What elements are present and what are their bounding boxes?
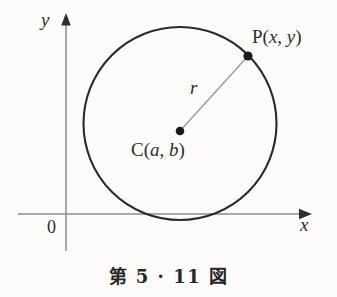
center-point-marker	[176, 127, 185, 136]
origin-label: 0	[47, 218, 56, 236]
point-c-label: C(a, b)	[131, 140, 185, 159]
radius-label: r	[190, 78, 197, 97]
boundary-point-marker	[243, 51, 252, 60]
figure-page: y x 0 P(x, y) C(a, b) r 第 5 · 11 図	[0, 0, 337, 297]
point-p-label: P(x, y)	[252, 27, 302, 46]
y-axis-label: y	[41, 10, 49, 29]
y-axis-arrowhead	[61, 13, 71, 26]
figure-caption: 第 5 · 11 図	[0, 262, 337, 288]
x-axis-label: x	[300, 215, 308, 234]
